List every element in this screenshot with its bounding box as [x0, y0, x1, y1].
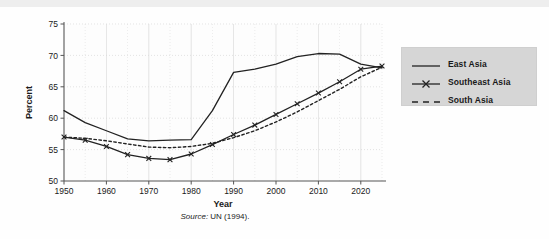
svg-text:55: 55 [49, 145, 59, 155]
svg-text:1970: 1970 [139, 186, 158, 196]
svg-text:2010: 2010 [309, 186, 328, 196]
svg-text:2000: 2000 [267, 186, 286, 196]
svg-text:70: 70 [49, 51, 59, 61]
line-chart-plot: 5055606570751950196019701980199020002010… [0, 0, 549, 239]
svg-text:1990: 1990 [224, 186, 243, 196]
svg-text:65: 65 [49, 82, 59, 92]
legend-sample-solid-line [411, 58, 441, 70]
legend-sample-dashed-line [411, 94, 441, 106]
svg-text:1950: 1950 [55, 186, 74, 196]
svg-text:2020: 2020 [351, 186, 370, 196]
svg-text:1960: 1960 [97, 186, 116, 196]
chart-figure: 5055606570751950196019701980199020002010… [0, 0, 549, 239]
svg-text:Year: Year [213, 199, 233, 209]
source-prefix: Source: [181, 212, 209, 221]
svg-text:50: 50 [49, 176, 59, 186]
svg-text:75: 75 [49, 19, 59, 29]
legend-sample-solid-line-x-marker [411, 76, 441, 88]
svg-text:1980: 1980 [182, 186, 201, 196]
source-note: Source: UN (1994). [0, 212, 430, 221]
legend-label-south-asia: South Asia [448, 95, 493, 105]
source-text: UN (1994). [208, 212, 249, 221]
legend-item-east-asia: East Asia [411, 55, 536, 72]
chart-legend: East Asia Southeast Asia South Asia [401, 47, 537, 106]
legend-label-southeast-asia: Southeast Asia [448, 77, 511, 87]
svg-text:60: 60 [49, 113, 59, 123]
svg-text:Percent: Percent [24, 86, 34, 119]
legend-label-east-asia: East Asia [448, 59, 487, 69]
legend-item-south-asia: South Asia [411, 91, 536, 108]
legend-item-southeast-asia: Southeast Asia [411, 73, 536, 90]
